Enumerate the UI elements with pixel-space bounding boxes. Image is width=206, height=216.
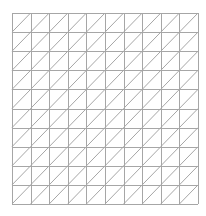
cell-diagonal-line — [31, 89, 50, 108]
cell-diagonal-line — [68, 32, 87, 51]
cell-diagonal-line — [179, 32, 198, 51]
cell-diagonal-line — [68, 128, 87, 147]
cell-diagonal-line — [124, 70, 143, 89]
cell-diagonal-line — [179, 109, 198, 128]
cell-diagonal-line — [12, 128, 31, 147]
cell-diagonal-line — [179, 51, 198, 70]
cell-diagonal-line — [124, 109, 143, 128]
cell-diagonal-line — [105, 32, 124, 51]
cell-diagonal-line — [86, 32, 105, 51]
cell-diagonal-line — [49, 109, 68, 128]
cell-diagonal-line — [12, 51, 31, 70]
cell-diagonal-line — [12, 32, 31, 51]
cell-diagonal-line — [142, 109, 161, 128]
cell-diagonal-line — [105, 13, 124, 32]
cell-diagonal-line — [49, 147, 68, 166]
cell-diagonal-line — [142, 166, 161, 185]
cell-diagonal-line — [86, 13, 105, 32]
cell-diagonal-line — [12, 185, 31, 204]
cell-diagonal-line — [49, 51, 68, 70]
cell-diagonal-line — [31, 185, 50, 204]
cell-diagonal-line — [68, 166, 87, 185]
cell-diagonal-line — [105, 147, 124, 166]
cell-diagonal-line — [179, 89, 198, 108]
cell-diagonal-line — [179, 147, 198, 166]
cell-diagonal-line — [68, 147, 87, 166]
cell-diagonal-line — [49, 166, 68, 185]
cell-diagonal-line — [161, 147, 180, 166]
cell-diagonal-line — [12, 166, 31, 185]
cell-diagonal-line — [124, 89, 143, 108]
cell-diagonal-line — [179, 166, 198, 185]
cell-diagonal-line — [31, 13, 50, 32]
cell-diagonal-line — [179, 128, 198, 147]
cell-diagonal-line — [161, 32, 180, 51]
cell-diagonal-line — [179, 70, 198, 89]
cell-diagonal-line — [161, 89, 180, 108]
cell-diagonal-line — [124, 13, 143, 32]
cell-diagonal-line — [68, 70, 87, 89]
cell-diagonal-line — [68, 89, 87, 108]
cell-diagonal-line — [49, 89, 68, 108]
cell-diagonal-line — [68, 185, 87, 204]
cell-diagonal-line — [31, 166, 50, 185]
cell-diagonal-line — [49, 128, 68, 147]
cell-diagonal-line — [124, 51, 143, 70]
cell-diagonal-line — [68, 51, 87, 70]
triangulated-mesh-diagram — [0, 0, 206, 216]
cell-diagonal-line — [142, 147, 161, 166]
cell-diagonal-line — [105, 166, 124, 185]
cell-diagonal-line — [31, 128, 50, 147]
cell-diagonal-line — [86, 166, 105, 185]
cell-diagonal-line — [86, 51, 105, 70]
cell-diagonal-line — [49, 185, 68, 204]
cell-diagonal-line — [161, 109, 180, 128]
cell-diagonal-line — [12, 13, 31, 32]
cell-diagonal-line — [49, 32, 68, 51]
cell-diagonal-line — [49, 13, 68, 32]
cell-diagonal-line — [105, 185, 124, 204]
cell-diagonal-line — [12, 70, 31, 89]
cell-diagonal-line — [142, 70, 161, 89]
cell-diagonal-line — [161, 13, 180, 32]
cell-diagonal-line — [86, 89, 105, 108]
cell-diagonal-line — [142, 51, 161, 70]
cell-diagonal-line — [142, 128, 161, 147]
cell-diagonal-line — [86, 185, 105, 204]
cell-diagonal-line — [161, 166, 180, 185]
cell-diagonal-line — [161, 51, 180, 70]
cell-diagonal-line — [142, 32, 161, 51]
cell-diagonal-line — [124, 147, 143, 166]
cell-diagonal-line — [68, 109, 87, 128]
cell-diagonal-line — [161, 185, 180, 204]
cell-diagonal-line — [31, 109, 50, 128]
cell-diagonal-line — [105, 128, 124, 147]
cell-diagonal-line — [124, 166, 143, 185]
cell-diagonal-line — [12, 147, 31, 166]
cell-diagonal-line — [142, 89, 161, 108]
cell-diagonal-line — [31, 51, 50, 70]
cell-diagonal-line — [105, 109, 124, 128]
cell-diagonal-line — [124, 185, 143, 204]
cell-diagonal-line — [105, 51, 124, 70]
cell-diagonal-line — [179, 13, 198, 32]
cell-diagonal-line — [12, 89, 31, 108]
cell-diagonal-line — [105, 70, 124, 89]
cell-diagonal-line — [86, 147, 105, 166]
cell-diagonal-line — [142, 13, 161, 32]
cell-diagonal-line — [124, 128, 143, 147]
cell-diagonal-line — [161, 128, 180, 147]
cell-diagonal-line — [179, 185, 198, 204]
cell-diagonal-line — [105, 89, 124, 108]
cell-diagonal-line — [142, 185, 161, 204]
cell-diagonal-line — [161, 70, 180, 89]
cell-diagonal-line — [31, 32, 50, 51]
cell-diagonal-line — [49, 70, 68, 89]
cell-diagonal-line — [68, 13, 87, 32]
cell-diagonal-line — [86, 109, 105, 128]
cell-diagonal-line — [86, 128, 105, 147]
cell-diagonal-line — [12, 109, 31, 128]
cell-diagonal-line — [31, 147, 50, 166]
cell-diagonal-line — [31, 70, 50, 89]
cell-diagonal-line — [124, 32, 143, 51]
